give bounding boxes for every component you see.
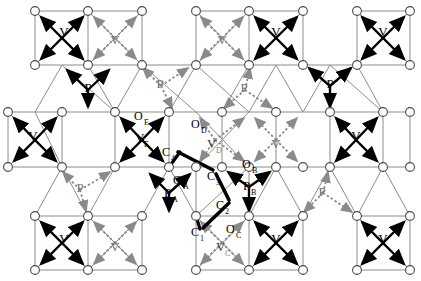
atom-label-V-t3: V [217, 32, 227, 47]
atom-label-P-B: P [243, 178, 250, 193]
atom-label-P-t2: P [156, 76, 163, 91]
atom-label-P-A-subscript: A [172, 195, 178, 204]
atom-label-V-m5: V [351, 128, 361, 143]
atom-label-O-C: O [226, 222, 235, 236]
atom-label-C-3: C [207, 169, 215, 183]
atom-label-V-b2: V [110, 239, 120, 254]
crystal-lattice-diagram: V V V V V V V V V V V V V E V D V C P P [0, 0, 421, 281]
atom-label-C-2: C [216, 198, 224, 212]
atom-label-C-4-subscript: 4 [171, 154, 175, 163]
atom-label-O-A: O [173, 173, 182, 187]
atom-label-O-A-subscript: A [183, 182, 189, 191]
atom-label-O-D-subscript: D [201, 126, 207, 135]
atom-label-P-A: P [164, 185, 171, 200]
atom-label-O-E: O [134, 109, 143, 123]
atom-label-V-E-subscript: E [144, 140, 149, 149]
atom-label-P-b1: P [76, 180, 83, 195]
atom-label-C-2-subscript: 2 [225, 207, 229, 216]
atom-label-V-b1: V [59, 231, 69, 246]
atom-label-P-t3: P [240, 80, 247, 95]
atom-label-O-B: O [242, 157, 251, 171]
atom-label-P-t1: P [84, 80, 91, 95]
atom-label-C-1: C [191, 225, 199, 239]
atom-label-V-t4: V [271, 24, 281, 39]
atom-label-V-b4: V [271, 231, 281, 246]
atom-label-O-D: O [191, 117, 200, 131]
atom-label-V-t2: V [110, 32, 120, 47]
atom-label-V-m4: V [271, 136, 281, 151]
atom-label-P-t4: P [326, 76, 333, 91]
atom-label-C-3-subscript: 3 [216, 178, 220, 187]
atom-label-C-1-subscript: 1 [200, 234, 204, 243]
atom-label-O-E-subscript: E [144, 118, 149, 127]
atom-label-V-m1: V [28, 128, 38, 143]
atom-label-P-b4: P [318, 184, 325, 199]
lattice-drawing-canvas: V V V V V V V V V V V V V E V D V C P P [0, 0, 421, 281]
atom-label-C-4: C [162, 145, 170, 159]
atom-label-P-B-subscript: B [251, 188, 256, 197]
atom-label-O-B-subscript: B [252, 166, 257, 175]
atom-label-O-C-subscript: C [236, 231, 241, 240]
atom-label-V-D-subscript: D [216, 146, 222, 155]
atom-label-V-t5: V [378, 24, 388, 39]
atom-label-V-C-subscript: C [225, 249, 230, 258]
atom-label-V-b5: V [378, 231, 388, 246]
atom-label-V-tl: V [59, 24, 69, 39]
